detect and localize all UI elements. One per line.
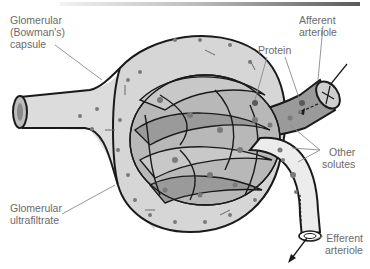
label-glomerular-ultrafiltrate: Glomerular ultrafiltrate bbox=[10, 202, 62, 226]
label-afferent-arteriole: Afferent arteriole bbox=[299, 14, 370, 38]
label-protein: Protein bbox=[258, 44, 291, 56]
label-other-solutes: Other solutes bbox=[322, 146, 355, 170]
label-bowmans-capsule: Glomerular (Bowman's) capsule bbox=[10, 14, 65, 50]
label-efferent-arteriole: Efferent arteriole bbox=[325, 232, 363, 256]
